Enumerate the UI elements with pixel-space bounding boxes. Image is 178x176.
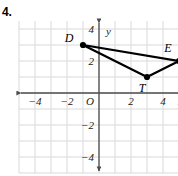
point-label-e: E bbox=[163, 41, 172, 55]
y-tick-label: −4 bbox=[81, 151, 94, 163]
x-tick-label: −4 bbox=[29, 95, 42, 107]
x-tick-label: −2 bbox=[61, 95, 74, 107]
point-label-d: D bbox=[64, 31, 74, 45]
coordinate-plane-figure: 4. −4−22442−2−4O xy DTE bbox=[0, 0, 178, 176]
point-t bbox=[144, 74, 150, 80]
x-tick-label: 4 bbox=[160, 95, 166, 107]
coordinate-grid-svg: −4−22442−2−4O xy DTE bbox=[0, 0, 178, 176]
y-axis-label: y bbox=[105, 25, 111, 37]
x-axis-label: x bbox=[177, 95, 178, 107]
y-tick-label: 4 bbox=[89, 23, 95, 35]
y-tick-label: −2 bbox=[81, 119, 94, 131]
x-tick-label: 2 bbox=[128, 95, 134, 107]
point-d bbox=[80, 42, 86, 48]
origin-label: O bbox=[86, 95, 94, 107]
y-tick-label: 2 bbox=[89, 55, 95, 67]
problem-number: 4. bbox=[2, 6, 12, 18]
